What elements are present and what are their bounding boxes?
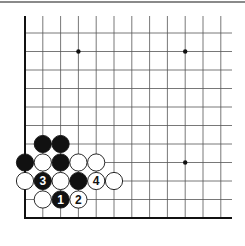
black-stone (70, 172, 87, 189)
black-stone (52, 135, 69, 152)
white-stone (70, 154, 87, 171)
white-stone: 4 (88, 172, 105, 189)
black-stone: 3 (34, 172, 51, 189)
white-stone (105, 172, 122, 189)
go-board: 3412 (0, 0, 245, 246)
star-point-icon (76, 49, 80, 53)
white-stone: 2 (70, 191, 87, 208)
black-stone (52, 154, 69, 171)
white-stone (52, 172, 69, 189)
move-number-label: 3 (39, 174, 46, 188)
black-stone (16, 154, 33, 171)
white-stone (34, 154, 51, 171)
move-number-label: 4 (93, 174, 100, 188)
black-stone: 1 (52, 191, 69, 208)
move-number-label: 1 (57, 193, 64, 207)
white-stone (16, 172, 33, 189)
star-point-icon (183, 160, 187, 164)
white-stone (88, 154, 105, 171)
star-point-icon (183, 49, 187, 53)
stones-layer: 3412 (16, 135, 122, 208)
white-stone (34, 191, 51, 208)
board-grid (24, 16, 232, 219)
move-number-label: 2 (75, 193, 82, 207)
black-stone (34, 135, 51, 152)
